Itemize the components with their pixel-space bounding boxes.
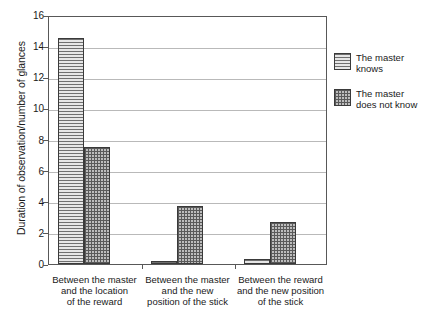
legend-swatch-series-2	[334, 89, 351, 106]
legend-label-line-2: knows	[356, 63, 383, 74]
category-label-3: Between the rewardand the new positionof…	[230, 274, 331, 307]
category-label-line-1: Between the master	[52, 274, 137, 285]
y-tick-label: 14	[8, 42, 44, 52]
y-tick-label: 8	[8, 136, 44, 146]
category-label-line-2: and the location	[61, 285, 128, 296]
y-tick-label: 6	[8, 167, 44, 177]
gridline	[49, 48, 326, 49]
y-tick-label: 0	[8, 260, 44, 270]
category-label-line-2: and the new position	[237, 285, 324, 296]
bar-series-2-category-3	[270, 222, 296, 264]
bar-series-1-category-1	[58, 38, 84, 264]
bar-series-2-category-1	[84, 147, 110, 264]
y-tick-label: 16	[8, 11, 44, 21]
category-label-line-3: position of the stick	[147, 296, 228, 307]
y-tick-label: 2	[8, 229, 44, 239]
y-tick-label: 10	[8, 104, 44, 114]
bar-chart: Duration of observation/number of glance…	[0, 0, 422, 310]
category-label-line-3: of the stick	[258, 296, 303, 307]
gridline	[49, 110, 326, 111]
category-label-line-1: Between the master	[145, 274, 230, 285]
legend-item: The master knows	[334, 52, 422, 74]
plot-area	[48, 16, 327, 265]
legend-swatch-series-1	[334, 53, 351, 70]
x-axis-tick	[235, 264, 236, 269]
category-label-line-2: and the new	[162, 285, 214, 296]
y-tick-label: 4	[8, 198, 44, 208]
legend-label-series-1: The master knows	[356, 52, 404, 74]
bar-series-1-category-3	[244, 259, 270, 264]
bar-series-1-category-2	[151, 261, 177, 264]
category-label-1: Between the masterand the locationof the…	[44, 274, 145, 307]
category-label-line-3: of the reward	[67, 296, 122, 307]
category-label-2: Between the masterand the newposition of…	[137, 274, 238, 307]
category-label-line-1: Between the reward	[238, 274, 323, 285]
gridline	[49, 79, 326, 80]
legend-label-line-1: The master	[356, 88, 404, 99]
gridline	[49, 141, 326, 142]
x-axis-tick	[142, 264, 143, 269]
legend-label-line-1: The master	[356, 52, 404, 63]
legend-label-series-2: The master does not know	[356, 88, 417, 110]
legend: The master knows The master does not kno…	[334, 52, 422, 124]
y-tick-label: 12	[8, 73, 44, 83]
legend-item: The master does not know	[334, 88, 422, 110]
bar-series-2-category-2	[177, 206, 203, 264]
legend-label-line-2: does not know	[356, 99, 417, 110]
